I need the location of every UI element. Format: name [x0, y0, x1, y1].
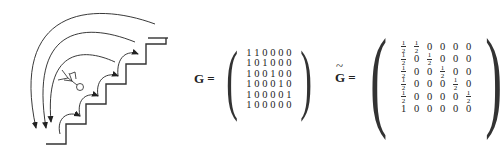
matrix-cell: 0 — [449, 103, 462, 116]
matrix-g-tilde: 1212000012012000120012001200012012000012… — [397, 41, 475, 116]
left-paren: ( — [226, 40, 238, 118]
matrix-cell: 12 — [423, 53, 436, 66]
matrix-cell: 0 — [410, 78, 423, 91]
matrix-g-tilde-equation: G = ( 1212000012012000120012001200012012… — [335, 22, 504, 134]
matrix-g-equation: G = ( 1100001010001001001000101000011000… — [194, 40, 319, 118]
matrix-cell: 0 — [436, 41, 449, 54]
matrix-g-tilde-label: G = — [335, 70, 356, 86]
matrix-cell: 0 — [449, 53, 462, 66]
matrix-cell: 0 — [462, 66, 475, 79]
matrix-cell: 0 — [410, 91, 423, 104]
matrix-cell: 0 — [261, 79, 269, 90]
matrix-cell: 1 — [245, 79, 253, 90]
matrix-cell: 12 — [462, 91, 475, 104]
right-paren: ) — [485, 22, 502, 134]
matrix-cell: 0 — [449, 91, 462, 104]
matrix-cell: 0 — [269, 58, 277, 69]
matrix-cell: 0 — [285, 79, 293, 90]
matrix-cell: 0 — [462, 53, 475, 66]
matrix-cell: 12 — [436, 66, 449, 79]
matrix-cell: 1 — [277, 79, 285, 90]
matrix-cell: 0 — [261, 100, 269, 111]
matrix-cell: 0 — [410, 53, 423, 66]
matrix-cell: 0 — [436, 103, 449, 116]
matrix-cell: 0 — [423, 103, 436, 116]
matrix-cell: 0 — [285, 100, 293, 111]
matrix-cell: 0 — [410, 66, 423, 79]
matrix-cell: 0 — [423, 66, 436, 79]
matrix-cell: 0 — [285, 58, 293, 69]
matrix-g: 110000101000100100100010100001100000 — [245, 48, 293, 111]
matrix-cell: 0 — [269, 100, 277, 111]
matrix-cell: 1 — [261, 58, 269, 69]
matrix-cell: 0 — [253, 79, 261, 90]
matrix-cell: 0 — [277, 58, 285, 69]
matrix-g-label: G = — [194, 71, 215, 87]
matrix-cell: 12 — [410, 41, 423, 54]
matrix-cell: 1 — [245, 58, 253, 69]
jumping-figure — [58, 70, 84, 91]
matrix-cell: 1 — [397, 103, 410, 116]
matrix-cell: 0 — [410, 103, 423, 116]
matrix-cell: 0 — [253, 58, 261, 69]
matrix-cell: 1 — [245, 100, 253, 111]
matrix-cell: 0 — [269, 79, 277, 90]
matrix-cell: 0 — [436, 78, 449, 91]
matrix-cell: 0 — [449, 41, 462, 54]
right-paren: ) — [300, 40, 312, 118]
matrix-cell: 12 — [397, 91, 410, 104]
matrix-cell: 0 — [277, 100, 285, 111]
matrix-cell: 12 — [449, 78, 462, 91]
matrix-cell: 0 — [462, 103, 475, 116]
left-paren: ( — [370, 22, 387, 134]
staircase — [46, 38, 166, 144]
matrix-cell: 0 — [462, 41, 475, 54]
matrix-cell: 0 — [436, 91, 449, 104]
matrix-cell: 0 — [423, 78, 436, 91]
matrix-cell: 0 — [423, 91, 436, 104]
matrix-cell: 0 — [253, 100, 261, 111]
